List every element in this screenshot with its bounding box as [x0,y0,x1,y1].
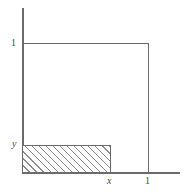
x-axis-tick-label-one: 1 [145,176,150,186]
unit-square-right-edge [148,43,149,173]
x-axis-tick-label-x: x [107,176,111,186]
hatched-region [22,145,111,173]
y-axis-tick-label-y: y [12,139,16,149]
unit-square-top-edge [22,43,149,44]
probability-unit-square-figure: 1 y x 1 [0,0,186,193]
y-axis-tick-label-one: 1 [11,38,16,48]
